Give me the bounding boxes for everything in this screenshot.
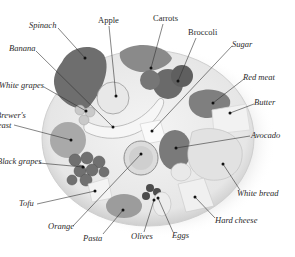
label-tofu: Tofu	[19, 199, 34, 208]
dot-pasta	[122, 209, 125, 212]
dot-apple	[115, 95, 118, 98]
label-hard-cheese: Hard cheese	[215, 216, 257, 225]
dot-broccoli	[177, 80, 180, 83]
label-spinach: Spinach	[29, 21, 56, 30]
dot-red-meat	[212, 102, 215, 105]
label-black-grapes: Black grapes	[0, 157, 42, 166]
label-avocado: Avocado	[251, 131, 280, 140]
dot-brewers-yeast-2	[70, 139, 73, 142]
dot-avocado	[175, 147, 178, 150]
label-eggs: Eggs	[172, 231, 189, 240]
label-banana: Banana	[9, 44, 35, 53]
dot-spinach	[84, 57, 87, 60]
dot-olives	[153, 199, 156, 202]
label-sugar: Sugar	[232, 40, 252, 49]
dot-butter	[229, 112, 232, 115]
label-brewers-yeast-1: Brewer's	[0, 111, 26, 120]
brewers-yeast-shape	[50, 122, 86, 158]
dot-eggs	[157, 197, 160, 200]
label-orange: Orange	[48, 222, 74, 231]
food-plate-diagram: SpinachAppleCarrotsBroccoliSugarRed meat…	[0, 0, 295, 257]
dot-white-bread	[222, 163, 225, 166]
label-white-grapes: White grapes	[0, 81, 44, 90]
white-bread-shape	[188, 129, 242, 181]
dot-banana	[112, 126, 115, 129]
pasta-shape	[106, 194, 142, 218]
label-pasta: Pasta	[83, 234, 102, 243]
dot-white-grapes	[85, 110, 88, 113]
label-olives: Olives	[131, 232, 153, 241]
dot-tofu	[94, 190, 97, 193]
label-butter: Butter	[254, 98, 275, 107]
dot-hard-cheese	[194, 196, 197, 199]
dot-carrots	[150, 67, 153, 70]
label-apple: Apple	[98, 16, 119, 25]
eggs-shape	[153, 192, 171, 216]
label-white-bread: White bread	[237, 189, 278, 198]
label-broccoli: Broccoli	[188, 28, 217, 37]
label-red-meat: Red meat	[243, 73, 275, 82]
label-brewers-yeast-2: yeast	[0, 121, 11, 130]
dot-sugar	[151, 130, 154, 133]
label-carrots: Carrots	[153, 14, 178, 23]
dot-orange	[140, 153, 143, 156]
apple-shape	[97, 82, 129, 114]
dot-black-grapes	[82, 166, 85, 169]
